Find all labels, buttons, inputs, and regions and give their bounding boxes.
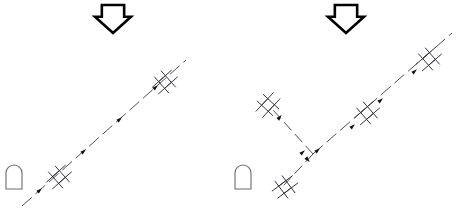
flow-marker [299, 149, 306, 156]
route-branch-upper-left [273, 110, 313, 154]
flow-marker [377, 97, 384, 104]
route-main-left [22, 60, 186, 206]
buildings-layer [6, 165, 251, 189]
tower-left-lower [42, 160, 76, 194]
flow-markers-layer [36, 68, 418, 194]
building-right [235, 165, 251, 189]
tower-left-upper [148, 65, 182, 99]
route-diagram-svg [0, 0, 456, 212]
tower-right-upper [412, 42, 446, 76]
building-left [6, 165, 22, 189]
arrows-layer [95, 5, 364, 33]
tower-right-branch-lower [268, 170, 302, 203]
down-arrow-left [95, 5, 131, 33]
route-branch-lower-left [283, 154, 313, 186]
flow-marker [349, 123, 356, 130]
diagram-canvas [0, 0, 456, 212]
flow-marker [411, 68, 418, 75]
down-arrow-right [328, 5, 364, 33]
